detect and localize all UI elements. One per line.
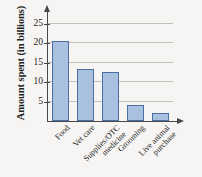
x-axis-category-label: Food (9, 124, 72, 177)
y-axis-tick-label: 15 (21, 58, 43, 68)
x-axis-arrow-icon (177, 118, 184, 124)
bar (152, 113, 169, 121)
bar-chart-figure: Amount spent (in billions) 510152025 Foo… (0, 0, 202, 177)
y-axis-tick-label: 10 (21, 77, 43, 87)
bar (52, 41, 69, 121)
gridline (48, 23, 173, 24)
y-axis-tick-label: 25 (21, 19, 43, 29)
y-axis-arrow-icon (44, 5, 50, 12)
bar (127, 105, 144, 121)
bar (77, 69, 94, 122)
y-axis-tick-label: 5 (21, 97, 43, 107)
x-axis-line (47, 121, 178, 122)
bar (102, 72, 119, 121)
plot-area (48, 16, 173, 121)
y-axis-tick-label: 20 (21, 38, 43, 48)
